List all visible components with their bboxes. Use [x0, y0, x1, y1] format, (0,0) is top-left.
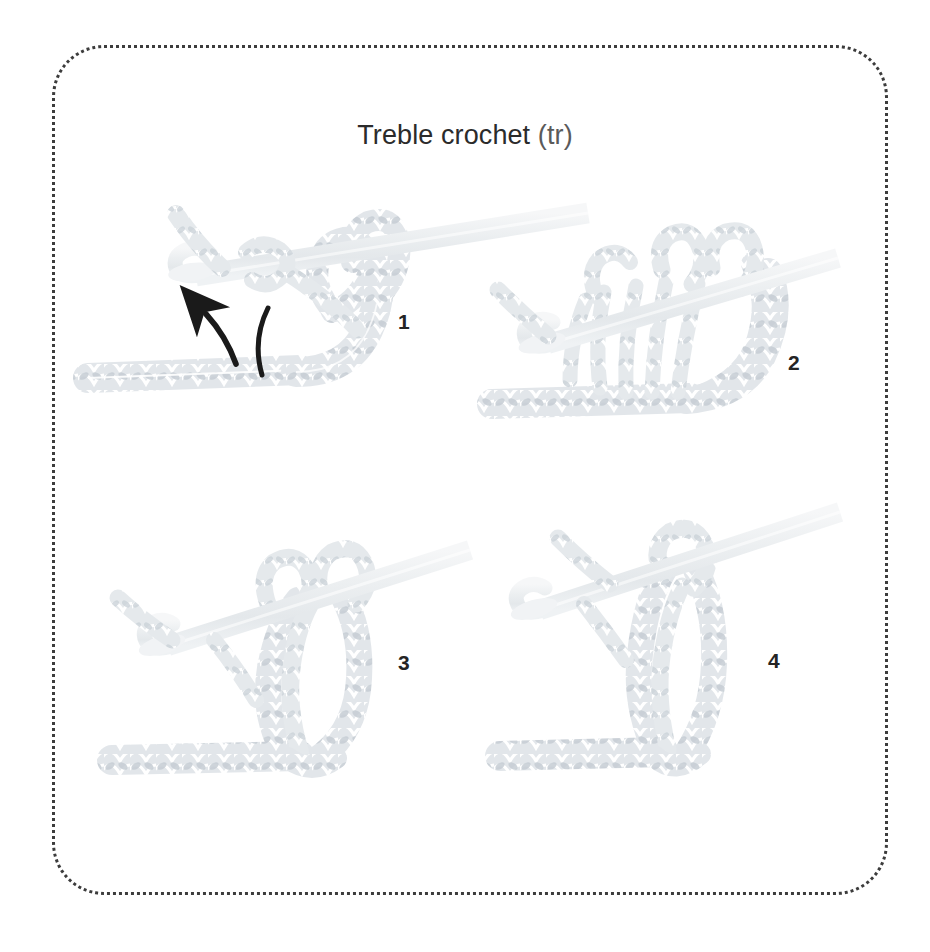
- step-number-4: 4: [768, 650, 780, 671]
- step-number-1: 1: [398, 311, 410, 332]
- page-title-abbreviation: (tr): [538, 120, 573, 150]
- page-title-main: Treble crochet: [357, 120, 530, 150]
- page-title: Treble crochet (tr): [0, 120, 930, 151]
- step-number-3: 3: [398, 652, 410, 673]
- dotted-frame-border: [52, 45, 888, 895]
- crochet-instruction-diagram: Treble crochet (tr): [0, 0, 930, 952]
- step-number-2: 2: [788, 352, 800, 373]
